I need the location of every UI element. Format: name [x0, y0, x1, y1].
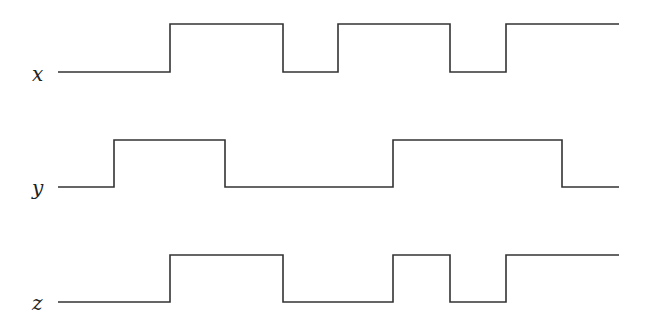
- waveform-y: [58, 140, 619, 187]
- waveform-x: [58, 24, 619, 72]
- signal-label-z: z: [32, 293, 43, 313]
- waveform-z: [58, 255, 619, 302]
- timing-diagram: [0, 0, 650, 326]
- signal-label-x: x: [32, 64, 43, 84]
- signal-label-y: y: [32, 178, 43, 198]
